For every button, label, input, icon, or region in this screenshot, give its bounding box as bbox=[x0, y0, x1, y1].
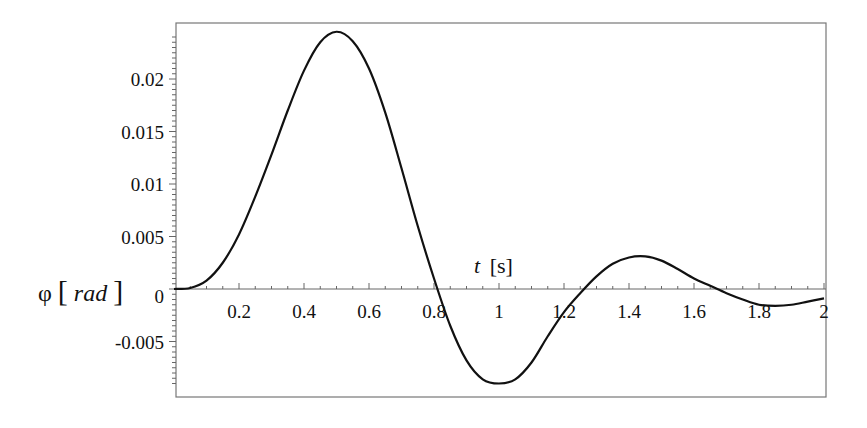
y-axis-bracket-open: [ bbox=[58, 274, 68, 307]
x-axis-title: t [s] bbox=[474, 253, 513, 278]
x-axis-ticks bbox=[190, 283, 824, 289]
y-axis-unit: rad bbox=[74, 280, 108, 306]
x-tick-label: 0.2 bbox=[227, 301, 251, 322]
y-tick-label: 0.02 bbox=[131, 69, 164, 90]
y-axis-title: φ [ rad ] bbox=[38, 274, 123, 307]
y-tick-label: 0.005 bbox=[121, 227, 164, 248]
x-axis-tick-labels: 0.20.40.60.811.21.41.61.82 bbox=[227, 301, 829, 322]
x-tick-label: 0.4 bbox=[292, 301, 316, 322]
data-series-curve bbox=[174, 32, 824, 384]
y-tick-label: 0.01 bbox=[131, 174, 164, 195]
x-tick-label: 2 bbox=[819, 301, 829, 322]
x-axis-var: t bbox=[474, 253, 481, 278]
x-tick-label: 1.6 bbox=[682, 301, 706, 322]
x-axis-unit: [s] bbox=[490, 253, 513, 278]
y-tick-label: -0.005 bbox=[115, 332, 164, 353]
y-tick-label: 0 bbox=[155, 286, 165, 307]
y-axis-bracket-close: ] bbox=[113, 274, 123, 307]
y-axis-var: φ bbox=[38, 280, 52, 306]
y-tick-label: 0.015 bbox=[121, 122, 164, 143]
x-tick-label: 1.4 bbox=[617, 301, 641, 322]
line-chart: -0.00500.0050.010.0150.02 0.20.40.60.811… bbox=[0, 0, 867, 428]
x-tick-label: 0.6 bbox=[357, 301, 381, 322]
y-axis-ticks bbox=[169, 37, 176, 384]
x-tick-label: 1 bbox=[494, 301, 504, 322]
y-axis-tick-labels: -0.00500.0050.010.0150.02 bbox=[115, 69, 164, 353]
plot-frame bbox=[176, 23, 826, 397]
